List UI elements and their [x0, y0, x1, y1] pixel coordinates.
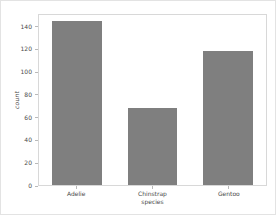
- x-tick-mark: [76, 186, 77, 189]
- y-tick-label: 40: [24, 137, 35, 143]
- x-axis-title: species: [38, 199, 267, 205]
- bar-adelie: [52, 21, 102, 185]
- bars-container: [39, 15, 266, 185]
- y-tick-label: 100: [21, 69, 35, 75]
- y-tick-label: 60: [24, 115, 35, 121]
- x-tick-mark: [152, 186, 153, 189]
- bar-gentoo: [203, 51, 253, 185]
- y-tick-label: 80: [24, 92, 35, 98]
- bar-slot: [39, 15, 115, 185]
- x-tick-label: Adelie: [67, 191, 86, 197]
- plot-axes: [38, 14, 267, 186]
- x-tick-mark: [228, 186, 229, 189]
- y-tick-label: 120: [21, 46, 35, 52]
- y-tick-label: 20: [24, 160, 35, 166]
- y-tick-label: 0: [28, 183, 35, 189]
- chart-figure: 0 20 40 60 80 100 120 140: [0, 0, 276, 215]
- y-axis-title: count: [10, 14, 22, 186]
- x-tick-label: Chinstrap: [138, 191, 167, 197]
- x-tick: Adelie: [38, 186, 114, 200]
- bar-chinstrap: [128, 108, 178, 185]
- x-tick-label: Gentoo: [218, 191, 240, 197]
- bar-slot: [115, 15, 191, 185]
- y-tick-label: 140: [21, 24, 35, 30]
- x-tick: Gentoo: [191, 186, 267, 200]
- bar-slot: [190, 15, 266, 185]
